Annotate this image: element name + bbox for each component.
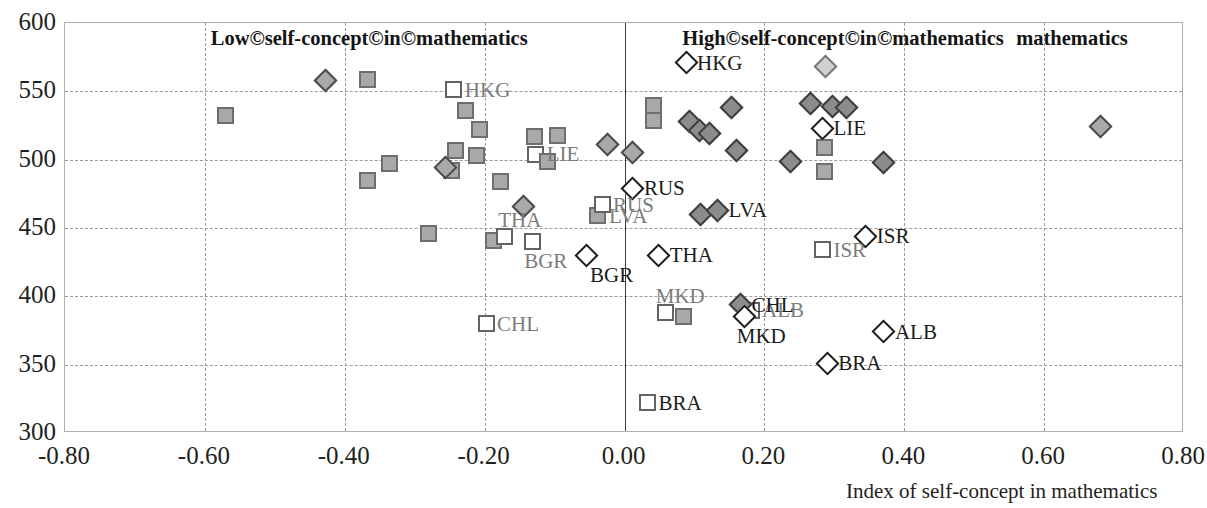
data-point-square (468, 147, 485, 164)
x-tick-0.20: 0.20 (708, 443, 818, 468)
point-label-bgr: BGR (524, 251, 567, 272)
point-label-mkd: MKD (737, 326, 786, 347)
data-point-square (359, 71, 376, 88)
x-axis-title: Index of self-concept in mathematics (846, 480, 1157, 502)
data-point-square (471, 121, 488, 138)
point-label-tha: THA (498, 210, 541, 231)
data-point-square (816, 163, 833, 180)
point-label-tha: THA (670, 245, 713, 266)
high-self-concept-caption: High©self-concept©in©mathematics (682, 27, 1004, 49)
low-self-concept-caption: Low©self-concept©in©mathematics (211, 27, 528, 49)
x-tick--0.80: -0.80 (9, 443, 119, 468)
x-axis-tick-labels: -0.80-0.60-0.40-0.200.000.200.400.600.80 (0, 0, 1207, 508)
data-point-square (675, 308, 692, 325)
data-point-square-chl (478, 315, 495, 332)
point-label-bgr: BGR (590, 265, 633, 286)
point-label-mkd: MKD (656, 286, 705, 307)
point-label-bra: BRA (659, 393, 702, 414)
data-point-square (645, 112, 662, 129)
point-label-lie: LIE (547, 144, 580, 165)
data-point-square (447, 142, 464, 159)
point-label-hkg: HKG (465, 80, 511, 101)
high-self-concept-caption-overlap: mathematics (1016, 27, 1128, 49)
point-label-chl: CHL (497, 314, 539, 335)
point-label-isr: ISR (877, 226, 910, 247)
data-point-square (420, 225, 437, 242)
point-label-isr: ISR (833, 240, 866, 261)
point-label-lie: LIE (833, 118, 866, 139)
x-tick--0.60: -0.60 (149, 443, 259, 468)
x-tick-0.00: 0.00 (569, 443, 679, 468)
data-point-square (381, 155, 398, 172)
point-label-alb: ALB (895, 322, 937, 343)
data-point-square-isr (814, 241, 831, 258)
x-tick--0.20: -0.20 (429, 443, 539, 468)
data-point-square-hkg (445, 81, 462, 98)
data-point-square (359, 172, 376, 189)
data-point-square (549, 127, 566, 144)
point-label-chl: CHL (752, 295, 794, 316)
x-tick-0.60: 0.60 (988, 443, 1098, 468)
scatter-chart: HKGLIETHABGRLVARUSCHLMKDALBISRBRABGRRUSH… (0, 0, 1207, 508)
data-point-square (526, 128, 543, 145)
data-point-square (816, 139, 833, 156)
data-point-square (492, 173, 509, 190)
point-label-bra: BRA (838, 353, 881, 374)
data-point-square-bra (639, 394, 656, 411)
point-label-lva: LVA (729, 200, 768, 221)
x-tick-0.40: 0.40 (848, 443, 958, 468)
data-point-square (217, 107, 234, 124)
x-tick-0.80: 0.80 (1128, 443, 1207, 468)
point-label-hkg: HKG (697, 53, 743, 74)
x-tick--0.40: -0.40 (289, 443, 399, 468)
point-label-rus: RUS (644, 178, 685, 199)
data-point-square (457, 102, 474, 119)
data-point-square-bgr (524, 233, 541, 250)
